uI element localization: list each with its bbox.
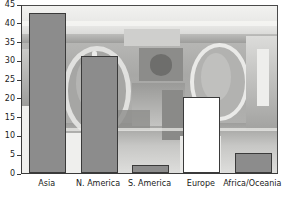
x-tick-label-asia: Asia: [38, 180, 55, 188]
chart-figure: 051015202530354045 AsiaN. AmericaS. Amer…: [0, 0, 284, 198]
y-tick-label-5: 5: [0, 151, 15, 159]
x-tick-label-s-america: S. America: [128, 180, 171, 188]
y-tick-label-15: 15: [0, 114, 15, 122]
y-tick-label-10: 10: [0, 132, 15, 140]
y-tick-label-20: 20: [0, 95, 15, 103]
y-tick-label-30: 30: [0, 57, 15, 65]
x-tick-label-europe: Europe: [187, 180, 215, 188]
x-tick-label-africa-oceania: Africa/Oceania: [223, 180, 281, 188]
y-tick-label-25: 25: [0, 76, 15, 84]
y-tick-label-40: 40: [0, 20, 15, 28]
x-tick-label-n-america: N. America: [76, 180, 120, 188]
y-tick-label-45: 45: [0, 1, 15, 9]
y-axis-tick-labels: 051015202530354045: [0, 0, 284, 198]
y-tick-label-35: 35: [0, 39, 15, 47]
y-tick-label-0: 0: [0, 170, 15, 178]
